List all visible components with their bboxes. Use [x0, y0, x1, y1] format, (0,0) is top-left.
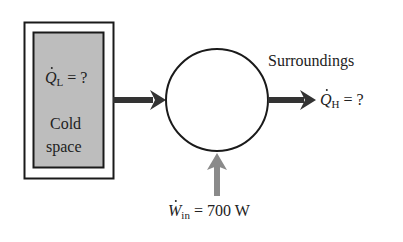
refrigerator-circle — [166, 49, 268, 151]
heat-value: = ? — [340, 91, 364, 108]
heat-in-arrow — [113, 90, 166, 110]
work-symbol: W — [168, 203, 181, 219]
cold-label-line1: Cold — [50, 116, 81, 132]
heat-symbol: Q — [320, 92, 332, 108]
heat-symbol: Q — [45, 70, 57, 86]
work-in-arrow — [207, 153, 227, 196]
heat-value: = ? — [63, 69, 87, 86]
work-input-label: Win = 700 W — [168, 203, 250, 221]
surroundings-label: Surroundings — [268, 53, 354, 69]
heat-low-label: QL = ? — [45, 70, 87, 88]
work-subscript: in — [181, 209, 190, 221]
heat-high-label: QH = ? — [320, 92, 364, 110]
cold-label-line2: space — [46, 139, 82, 155]
heat-out-arrow — [268, 90, 316, 110]
work-value: = 700 W — [190, 202, 250, 219]
heat-subscript: H — [332, 98, 340, 110]
